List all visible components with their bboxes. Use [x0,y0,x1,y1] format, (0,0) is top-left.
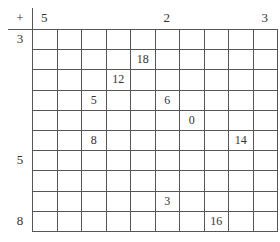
grid-cell [131,191,156,211]
grid-cell [253,191,278,211]
grid-cell [253,50,278,70]
grid-cell [106,211,131,231]
grid-cell [180,30,205,50]
grid-cell [180,191,205,211]
grid-cell [131,30,156,50]
grid-cell [229,110,254,130]
grid-cell [229,50,254,70]
grid-cell [82,70,107,90]
grid-row [33,30,278,50]
grid-cell [180,211,205,231]
grid-cell [33,171,58,191]
grid-cell [155,30,180,50]
grid-cell [253,171,278,191]
row-header: 8 [8,211,32,231]
row-header: 3 [8,29,32,49]
column-header: 5 [32,8,57,28]
grid-cell [253,70,278,90]
grid-cell [180,70,205,90]
grid-cell [180,90,205,110]
grid-cell [204,110,229,130]
grid-cell [155,211,180,231]
grid-cell [204,30,229,50]
grid-cell [204,151,229,171]
grid-cell [33,50,58,70]
grid-cell [253,130,278,150]
row-header [8,90,32,110]
grid-cell [106,171,131,191]
grid-cell [131,211,156,231]
grid-cell [106,50,131,70]
grid-cell [82,30,107,50]
grid-cell [33,211,58,231]
column-header [81,8,106,28]
addition-grid-worksheet: + 523 358 1812560814316 [0,0,280,242]
grid-cell [106,90,131,110]
grid-cell [155,110,180,130]
grid-row: 814 [33,130,278,150]
grid-cell [57,191,82,211]
grid-row [33,171,278,191]
grid-cell [180,171,205,191]
grid-cell [57,70,82,90]
grid-cell [204,130,229,150]
grid-cell [33,191,58,211]
grid-row: 0 [33,110,278,130]
grid-cell [131,70,156,90]
grid-cell [82,171,107,191]
grid-cell [131,110,156,130]
grid-cell [229,211,254,231]
column-header: 2 [155,8,180,28]
grid-cell: 14 [229,130,254,150]
grid-cell [57,211,82,231]
column-header [228,8,253,28]
grid-cell [253,30,278,50]
grid-cell [229,151,254,171]
grid-cell [229,30,254,50]
grid-cell [204,50,229,70]
row-header [8,110,32,130]
row-header [8,170,32,190]
grid-cell [33,70,58,90]
grid-cell [131,151,156,171]
column-header [179,8,204,28]
grid-cell [253,110,278,130]
grid-row: 18 [33,50,278,70]
row-header [8,191,32,211]
answer-grid: 1812560814316 [32,29,278,232]
grid-cell [57,110,82,130]
grid-cell [155,70,180,90]
grid-cell [155,50,180,70]
grid-cell [155,130,180,150]
grid-cell [82,110,107,130]
column-header [106,8,131,28]
grid-cell [57,50,82,70]
grid-cell [131,130,156,150]
row-header [8,49,32,69]
column-header: 3 [253,8,278,28]
grid-cell [253,211,278,231]
grid-cell [57,30,82,50]
grid-row [33,151,278,171]
grid-cell: 16 [204,211,229,231]
grid-cell [131,90,156,110]
grid-cell [106,110,131,130]
grid-cell [229,90,254,110]
grid-cell [33,110,58,130]
grid-cell [253,151,278,171]
grid-cell [82,211,107,231]
grid-cell [106,30,131,50]
grid-cell [106,151,131,171]
grid-cell [204,90,229,110]
grid-cell [253,90,278,110]
column-header [204,8,229,28]
grid-cell [155,151,180,171]
column-header [57,8,82,28]
grid-cell [204,191,229,211]
grid-cell: 0 [180,110,205,130]
row-header [8,130,32,150]
grid-cell [82,191,107,211]
grid-row: 3 [33,191,278,211]
grid-cell [57,130,82,150]
grid-cell: 3 [155,191,180,211]
